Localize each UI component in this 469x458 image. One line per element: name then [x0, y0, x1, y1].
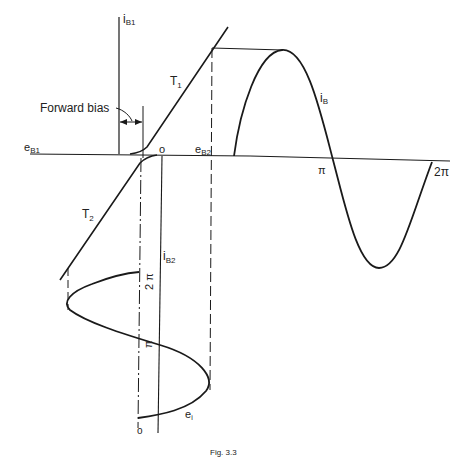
- ib2-axis: [158, 156, 162, 433]
- figure-caption: Fig. 3.3: [210, 448, 237, 457]
- two-pi-horizontal-label: 2π: [434, 165, 449, 179]
- t2-label: T2: [82, 207, 94, 223]
- two-pi-vertical-label: 2 π: [143, 273, 155, 290]
- diagram-canvas: iB1 T1 Forward bias eB1 o eB2 iB π 2π T2…: [0, 0, 469, 458]
- t1-curve: [130, 27, 228, 154]
- arrow-right-icon: [135, 119, 142, 125]
- pi-vertical-label: π: [142, 340, 154, 348]
- origin-top-label: o: [159, 143, 165, 155]
- eb2-label: eB2: [195, 143, 211, 157]
- pi-horizontal-label: π: [318, 164, 326, 176]
- input-time-axis: [138, 158, 141, 428]
- projection-peak: [212, 48, 283, 50]
- arrow-left-icon: [120, 119, 127, 125]
- t2-curve: [60, 155, 157, 280]
- eb1-label: eB1: [24, 141, 40, 155]
- ib1-label: iB1: [123, 12, 136, 27]
- t1-label: T1: [170, 74, 182, 90]
- ei-label: ei: [185, 408, 193, 421]
- horizontal-axis: [30, 154, 250, 156]
- origin-bottom-label: o: [137, 425, 143, 436]
- ib-output-wave: [234, 50, 432, 268]
- ib2-label: iB2: [163, 249, 176, 265]
- projection-eb2: [210, 48, 212, 390]
- forward-bias-label: Forward bias: [40, 101, 109, 115]
- ib-label: iB: [320, 91, 328, 106]
- horizontal-axis-right: [250, 156, 450, 161]
